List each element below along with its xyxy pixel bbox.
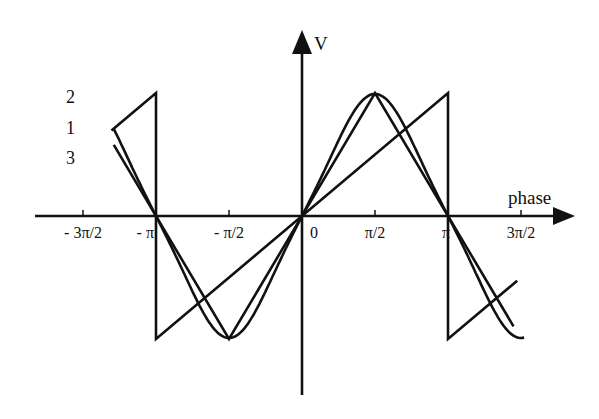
x-tick-label: - π — [137, 224, 154, 241]
x-tick-label: 0 — [310, 224, 318, 241]
x-tick-label: π/2 — [365, 224, 386, 241]
voltage-axis-arrow-icon — [292, 30, 312, 54]
curve-3-label: 3 — [66, 148, 75, 168]
curve-2-label: 2 — [66, 87, 75, 107]
x-tick-label: - π/2 — [214, 224, 244, 241]
y-axis-label: V — [314, 33, 328, 54]
x-ticks: - 3π/2- π- π/20π/2π3π/2 — [64, 210, 535, 241]
curve-1-label: 1 — [66, 118, 75, 138]
x-tick-label: 3π/2 — [507, 224, 536, 241]
x-axis-label: phase — [508, 187, 551, 208]
x-tick-label: - 3π/2 — [64, 224, 102, 241]
phase-axis-arrow-icon — [553, 207, 575, 225]
waveform-diagram: phase V - 3π/2- π- π/20π/2π3π/2 2 1 3 — [0, 0, 599, 419]
